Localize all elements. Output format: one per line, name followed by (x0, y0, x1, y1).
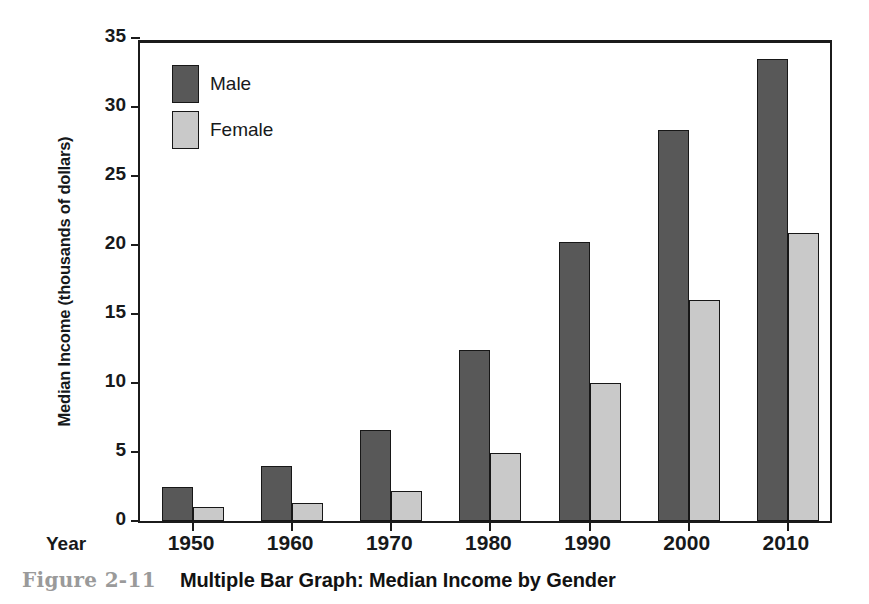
y-tick-label: 5 (115, 439, 126, 461)
y-tick-label: 20 (105, 232, 126, 254)
bar-male-1950 (162, 487, 193, 522)
bar-female-1950 (193, 507, 224, 521)
y-tick-mark (131, 382, 140, 384)
bar-male-1990 (559, 242, 590, 521)
y-tick-label: 30 (105, 94, 126, 116)
bar-female-1960 (292, 503, 323, 521)
y-tick-label: 25 (105, 163, 126, 185)
legend-label-male: Male (210, 73, 251, 95)
bar-female-1970 (391, 491, 422, 521)
y-tick-mark (131, 175, 140, 177)
caption-figure-number: Figure 2-11 (22, 568, 156, 592)
bar-male-1970 (360, 430, 391, 521)
x-tick-mark-1990 (589, 521, 591, 531)
legend-label-female: Female (210, 119, 273, 141)
x-tick-label-1960: 1960 (242, 531, 338, 555)
bar-female-1990 (590, 383, 621, 521)
y-tick-label: 15 (105, 301, 126, 323)
figure-median-income-by-gender: Median Income (thousands of dollars) Yea… (0, 0, 869, 604)
bar-male-1960 (261, 466, 292, 521)
bar-group-1970 (360, 43, 422, 521)
x-tick-label-2000: 2000 (639, 531, 735, 555)
y-tick-label: 35 (105, 25, 126, 47)
y-tick-mark (131, 106, 140, 108)
bar-female-2000 (689, 300, 720, 521)
figure-caption: Figure 2-11 Multiple Bar Graph: Median I… (22, 568, 616, 592)
x-axis-name: Year (46, 533, 86, 555)
bar-female-1980 (490, 453, 521, 521)
y-tick-mark (131, 244, 140, 246)
plot-area: 05101520253035 Male Female (138, 40, 832, 523)
bar-male-2010 (757, 59, 788, 521)
x-tick-label-1950: 1950 (143, 531, 239, 555)
bar-group-2000 (658, 43, 720, 521)
y-tick-mark (131, 37, 140, 39)
bar-female-2010 (788, 233, 819, 521)
legend-swatch-male-icon (172, 65, 199, 103)
bar-male-1980 (459, 350, 490, 521)
legend: Male Female (172, 61, 273, 153)
x-tick-mark-1970 (390, 521, 392, 531)
legend-swatch-female-icon (172, 111, 199, 149)
x-tick-label-2010: 2010 (738, 531, 834, 555)
x-tick-mark-1960 (291, 521, 293, 531)
x-tick-label-1990: 1990 (540, 531, 636, 555)
y-tick-mark (131, 313, 140, 315)
x-tick-label-1980: 1980 (440, 531, 536, 555)
bar-group-1980 (459, 43, 521, 521)
x-tick-label-1970: 1970 (341, 531, 437, 555)
x-tick-mark-2000 (688, 521, 690, 531)
legend-item-female: Female (172, 107, 273, 153)
x-tick-mark-1950 (192, 521, 194, 531)
bar-group-1990 (559, 43, 621, 521)
x-tick-mark-1980 (489, 521, 491, 531)
legend-item-male: Male (172, 61, 273, 107)
bar-group-2010 (757, 43, 819, 521)
x-tick-mark-2010 (787, 521, 789, 531)
caption-title: Multiple Bar Graph: Median Income by Gen… (180, 569, 616, 592)
y-tick-mark (131, 451, 140, 453)
y-tick-mark (131, 520, 140, 522)
y-axis-title: Median Income (thousands of dollars) (55, 52, 74, 512)
y-tick-label: 10 (105, 370, 126, 392)
bar-male-2000 (658, 130, 689, 521)
y-tick-label: 0 (115, 508, 126, 530)
